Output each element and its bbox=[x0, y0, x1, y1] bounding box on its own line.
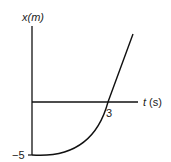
tick-label-t3: 3 bbox=[106, 107, 112, 119]
x-axis-label: t (s) bbox=[143, 96, 162, 108]
y-axis-label: x(m) bbox=[21, 11, 44, 23]
tick-label-x-neg5: −5 bbox=[12, 149, 25, 161]
position-curve bbox=[32, 34, 133, 155]
position-time-graph: x(m) t (s) 3 −5 bbox=[0, 0, 171, 162]
